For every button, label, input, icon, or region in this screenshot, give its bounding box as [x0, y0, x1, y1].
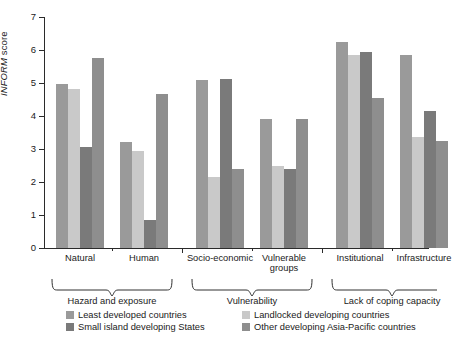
bar — [220, 79, 232, 248]
y-axis-tick-label: 2 — [16, 177, 36, 187]
legend-swatch-icon — [242, 323, 250, 331]
group-bracket — [192, 279, 312, 296]
group-label: Vulnerability — [182, 296, 322, 306]
y-axis-tick-label: 1 — [16, 210, 36, 220]
bar — [80, 147, 92, 248]
y-axis-title-plain: score — [0, 31, 9, 57]
category-label: Infrastructure — [379, 253, 456, 263]
legend-label: Other developing Asia-Pacific countries — [254, 322, 416, 332]
bar — [196, 80, 208, 248]
bar — [208, 177, 220, 248]
bar — [412, 137, 424, 248]
bar — [132, 151, 144, 248]
legend-swatch-icon — [242, 311, 250, 319]
bar — [372, 98, 384, 248]
bar — [424, 111, 436, 248]
group-label: Hazard and exposure — [42, 296, 182, 306]
y-axis-title: INFORM score — [0, 31, 9, 96]
y-axis-tick-label: 4 — [16, 111, 36, 121]
legend-label: Landlocked developing countries — [254, 310, 389, 320]
legend-swatch-icon — [66, 311, 74, 319]
axis-minor-tick — [252, 248, 253, 251]
y-axis-tick — [39, 248, 44, 249]
legend-label: Small island developing States — [78, 322, 205, 332]
y-axis-tick-label: 6 — [16, 45, 36, 55]
group-label: Lack of coping capacity — [322, 296, 456, 306]
bar — [68, 89, 80, 248]
bar — [360, 52, 372, 248]
axis-minor-tick — [112, 248, 113, 251]
bar — [348, 55, 360, 248]
bar — [260, 119, 272, 248]
bar — [436, 141, 448, 248]
bar — [400, 55, 412, 248]
y-axis-tick-label: 5 — [16, 78, 36, 88]
bar — [120, 142, 132, 248]
x-axis-line — [44, 248, 429, 249]
y-axis-tick-label: 7 — [16, 12, 36, 22]
legend-item[interactable]: Least developed countries — [66, 309, 242, 321]
axis-minor-tick — [392, 248, 393, 251]
bar — [144, 220, 156, 248]
bar — [56, 84, 68, 248]
legend-swatch-icon — [66, 323, 74, 331]
bar — [156, 94, 168, 248]
y-axis-tick-label: 3 — [16, 144, 36, 154]
legend-label: Least developed countries — [78, 310, 187, 320]
chart-legend: Least developed countriesLandlocked deve… — [66, 309, 396, 333]
group-bracket — [332, 279, 437, 296]
bar — [336, 42, 348, 248]
group-bracket — [52, 279, 172, 296]
bar — [284, 169, 296, 248]
bars-layer — [44, 17, 429, 248]
bar — [296, 119, 308, 248]
bar — [272, 166, 284, 249]
y-axis-title-italic: INFORM — [0, 58, 9, 96]
legend-item[interactable]: Other developing Asia-Pacific countries — [242, 321, 402, 333]
bar — [232, 169, 244, 248]
bar — [92, 58, 104, 248]
legend-item[interactable]: Small island developing States — [66, 321, 242, 333]
y-axis-tick-label: 0 — [16, 243, 36, 253]
legend-item[interactable]: Landlocked developing countries — [242, 309, 402, 321]
